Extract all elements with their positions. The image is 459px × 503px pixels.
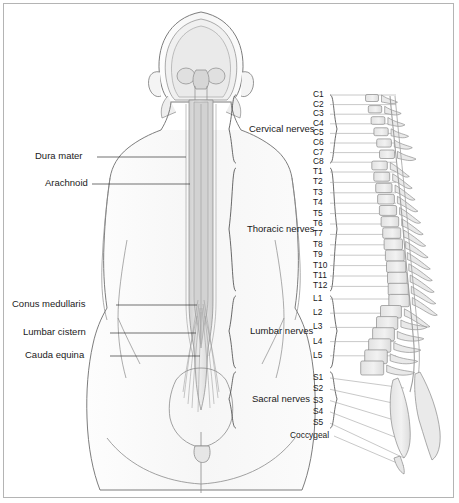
vertebra-label-s5: S5 [313,418,323,427]
vertebral-body [377,139,392,147]
vertebral-body [366,95,379,102]
spinous-process [390,354,418,364]
vertebra-label-coccygeal: Coccygeal [290,431,329,440]
label-sacral-nerves: Sacral nerves [252,393,310,404]
vertebral-body [383,228,401,239]
vertebra-label-c8: C8 [313,157,324,166]
vertebra-label-t2: T2 [313,177,323,186]
vertebra-tick-coccygeal [334,436,404,466]
spinous-process [397,331,424,341]
label-lumbar-nerves: Lumbar nerves [250,325,313,336]
vertebra-label-t6: T6 [313,219,323,228]
vertebral-body [381,306,402,319]
label-conus-medullaris: Conus medullaris [12,299,85,309]
vertebra-label-t12: T12 [313,281,327,290]
vertebral-body [385,250,404,261]
label-thoracic-nerves: Thoracic nerves [247,223,315,234]
vertebra-label-t4: T4 [313,198,323,207]
label-arachnoid: Arachnoid [45,178,88,188]
spinous-process [387,365,415,375]
vertebral-body [381,217,399,227]
vertebral-body [372,161,388,170]
label-cauda-equina: Cauda equina [25,350,84,360]
vertebral-body [380,150,395,159]
vertebra-label-t10: T10 [313,261,327,270]
vertebral-body [389,294,410,306]
spinous-process [394,140,412,149]
vertebral-body [378,194,395,204]
vertebral-body [374,172,390,181]
vertebra-label-l2: L2 [313,308,322,317]
vertebra-label-t5: T5 [313,209,323,218]
vertebra-label-t3: T3 [313,188,323,197]
vertebral-body [388,283,408,295]
vertebra-label-s4: S4 [313,407,323,416]
vertebral-body [361,361,384,375]
vertebral-body [374,128,388,136]
label-lumbar-cistern: Lumbar cistern [23,327,86,337]
vertebra-label-l4: L4 [313,337,322,346]
vertebra-label-l3: L3 [313,322,322,331]
vertebra-label-t7: T7 [313,229,323,238]
vertebra-label-s3: S3 [313,396,323,405]
vertebra-label-s1: S1 [313,373,323,382]
spinous-process [394,343,421,353]
spinous-process [385,106,402,115]
figure-root: Dura mater Arachnoid Conus medullaris Lu… [0,0,459,503]
vertebral-body [387,261,406,272]
vertebra-label-c1: C1 [313,90,324,99]
vertebral-body [384,239,402,250]
spinous-process [388,118,405,127]
vertebra-label-s2: S2 [313,384,323,393]
vertebral-body [379,206,396,216]
vertebra-label-t8: T8 [313,240,323,249]
vertebra-label-l1: L1 [313,294,322,303]
vertebra-label-c6: C6 [313,138,324,147]
vertebra-label-t1: T1 [313,167,323,176]
anatomy-illustration [0,0,459,503]
label-dura-mater: Dura mater [35,151,83,161]
vertebral-body [371,117,385,125]
vertebral-body [388,272,408,284]
vertebra-label-t9: T9 [313,250,323,259]
vertebral-body [376,183,392,192]
lateral-spine-illustration [361,95,440,475]
vertebra-label-c3: C3 [313,109,324,118]
vertebra-label-t11: T11 [313,271,327,280]
vertebral-body [368,106,381,113]
label-cervical-nerves: Cervical nerves [249,123,314,134]
vertebra-label-l5: L5 [313,351,322,360]
